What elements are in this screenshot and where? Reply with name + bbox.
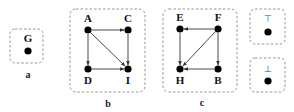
node-label-g: G bbox=[24, 32, 33, 44]
bottom-symbol: ⊥ bbox=[264, 64, 272, 74]
panel-bottom: ⊥ bbox=[250, 58, 285, 92]
node-label-i: I bbox=[126, 74, 130, 86]
panel-caption-b: b bbox=[105, 98, 111, 109]
node-d bbox=[84, 65, 91, 72]
lattice-diagram: G a A C D I b E F H B c bbox=[0, 0, 294, 112]
edge-f-h bbox=[183, 32, 215, 66]
edge-a-i bbox=[91, 33, 125, 66]
node-b bbox=[214, 65, 221, 72]
node-label-a: A bbox=[84, 12, 92, 24]
node-label-h: H bbox=[176, 74, 185, 86]
panel-top: ⊤ bbox=[250, 9, 285, 44]
node-label-b: B bbox=[214, 74, 222, 86]
panel-caption-c: c bbox=[200, 97, 205, 108]
node-c bbox=[124, 26, 131, 33]
panel-a: G a bbox=[10, 29, 43, 80]
node-g bbox=[24, 47, 31, 54]
node-a bbox=[84, 26, 91, 33]
panel-c: E F H B c bbox=[163, 9, 237, 108]
node-label-d: D bbox=[84, 74, 92, 86]
node-h bbox=[176, 65, 183, 72]
node-f bbox=[214, 25, 221, 32]
panel-caption-a: a bbox=[26, 69, 31, 80]
node-label-f: F bbox=[215, 11, 222, 23]
top-symbol: ⊤ bbox=[264, 14, 272, 24]
node-top bbox=[264, 28, 271, 35]
node-i bbox=[124, 65, 131, 72]
node-label-c: C bbox=[124, 12, 132, 24]
node-e bbox=[176, 25, 183, 32]
panel-b-border bbox=[70, 9, 145, 92]
panel-b: A C D I b bbox=[70, 9, 145, 109]
panel-c-border bbox=[163, 9, 237, 92]
node-label-e: E bbox=[176, 11, 183, 23]
node-bottom bbox=[264, 77, 271, 84]
